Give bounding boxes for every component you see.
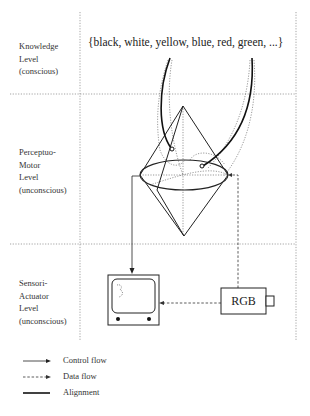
legend-control-flow-label: Control flow — [63, 355, 107, 365]
control-flow-arrow — [132, 176, 140, 272]
sensori-actuator-level-label: Sensori- Actuator Level (unconscious) — [19, 277, 67, 327]
alignment-curve-green — [203, 58, 252, 166]
monitor — [108, 275, 159, 325]
color-symbol-set: {black, white, yellow, blue, red, green,… — [88, 36, 283, 48]
anchor-point — [200, 164, 204, 168]
data-flow-camera-to-cone — [230, 175, 238, 288]
rgb-camera-label: RGB — [221, 288, 266, 314]
camera-lens-icon — [266, 296, 274, 306]
perceptual-cone — [140, 106, 228, 236]
alignment-curve-white — [161, 58, 171, 148]
knowledge-level-label: Knowledge Level (conscious) — [19, 40, 58, 78]
legend-alignment-label: Alignment — [63, 387, 99, 397]
perceptuo-motor-level-label: Perceptuo- Motor Level (unconscious) — [19, 146, 67, 196]
anchor-point — [170, 147, 174, 151]
legend-data-flow-label: Data flow — [63, 371, 97, 381]
